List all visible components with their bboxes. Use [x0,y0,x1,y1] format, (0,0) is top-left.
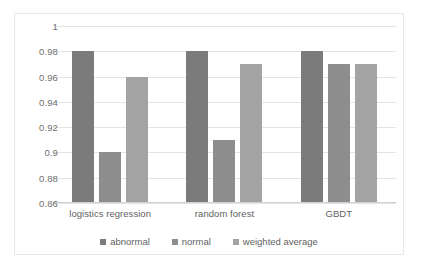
bar-group [167,26,281,203]
bar [328,64,350,203]
legend-swatch-icon [172,239,178,245]
bar [99,152,121,203]
y-axis-tick-label: 0.92 [18,122,58,133]
legend-swatch-icon [100,239,106,245]
bar [126,77,148,203]
category-label: random forest [195,208,254,219]
legend-item[interactable]: abnormal [100,236,150,247]
bar [72,51,94,203]
legend-swatch-icon [233,239,239,245]
bar-group [53,26,167,203]
plot-area [53,26,396,203]
legend-item[interactable]: normal [172,236,211,247]
y-axis-tick-label: 0.86 [18,198,58,209]
bar [213,140,235,203]
y-axis-tick-label: 0.96 [18,71,58,82]
y-axis-tick-label: 0.9 [18,147,58,158]
chart-legend: abnormalnormalweighted average [15,236,403,247]
bar [301,51,323,203]
bar [355,64,377,203]
legend-label: abnormal [110,236,150,247]
y-axis-tick-label: 0.98 [18,46,58,57]
gridline [53,203,396,204]
category-label: logistics regression [69,208,151,219]
y-axis-tick-label: 1 [18,21,58,32]
chart-frame: 10.980.960.940.920.90.880.86 logistics r… [14,13,404,255]
legend-label: weighted average [243,236,318,247]
y-axis-tick-label: 0.94 [18,96,58,107]
bar [186,51,208,203]
bar [240,64,262,203]
legend-item[interactable]: weighted average [233,236,318,247]
bar-group [282,26,396,203]
x-axis-line [53,202,396,203]
bars-layer [53,26,396,203]
category-label: GBDT [326,208,353,219]
legend-label: normal [182,236,211,247]
y-axis-tick-label: 0.88 [18,172,58,183]
